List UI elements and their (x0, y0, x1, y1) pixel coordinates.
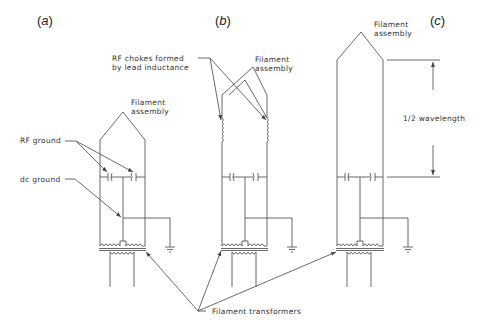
tube-a (99, 112, 175, 287)
schematic-drawing (0, 0, 483, 330)
tube-b (222, 67, 267, 118)
filament-assembly-label-b: Filamentassembly (255, 55, 293, 73)
dc-ground-label: dc ground (20, 175, 61, 184)
filament-assembly-label-a: Filamentassembly (131, 98, 169, 116)
rf-chokes-label: RF chokes formedby lead inductance (112, 54, 189, 72)
tube-b-body (221, 118, 297, 287)
panel-label-a: (a) (37, 13, 53, 28)
tube-c (336, 32, 413, 287)
panel-label-b: (b) (215, 13, 231, 28)
half-wavelength-label: 1/2 wavelength (403, 114, 465, 123)
panel-label-c: (c) (430, 13, 445, 28)
rf-ground-label: RF ground (20, 136, 61, 145)
filament-assembly-label-c: Filamentassembly (374, 20, 412, 38)
diagram-canvas: (a) (b) (c) Filamentassembly Filamentass… (0, 0, 483, 330)
filament-transformers-label: Filament transformers (212, 307, 301, 316)
